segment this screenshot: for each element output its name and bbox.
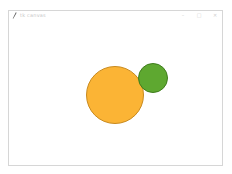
feather-icon [12, 12, 17, 19]
orange-circle[interactable] [86, 66, 144, 124]
window-title: tk canvas [20, 12, 46, 19]
window-controls: – □ ✕ [180, 12, 218, 20]
maximize-button[interactable]: □ [196, 12, 202, 19]
close-button[interactable]: ✕ [212, 12, 218, 19]
app-window: tk canvas – □ ✕ [8, 10, 223, 166]
green-circle[interactable] [138, 63, 168, 93]
drawing-canvas[interactable] [9, 21, 222, 165]
title-bar[interactable]: tk canvas – □ ✕ [9, 11, 222, 21]
minimize-button[interactable]: – [180, 12, 186, 19]
